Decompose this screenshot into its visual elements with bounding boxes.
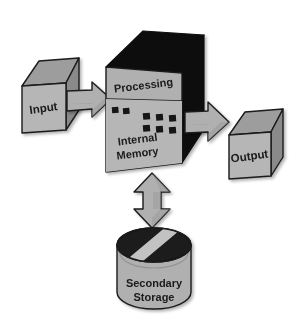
- diagram-canvas: Input Processing: [0, 0, 298, 322]
- node-processing-unit[interactable]: Processing Internal Memory: [106, 31, 204, 172]
- arrow-memory-to-storage: [134, 173, 170, 228]
- node-output[interactable]: Output: [229, 109, 283, 179]
- secondary-storage-label-line2: Storage: [134, 291, 175, 303]
- chip-square: [169, 127, 177, 134]
- chip-square: [143, 113, 151, 120]
- chip-square: [156, 126, 164, 133]
- chip-square: [112, 107, 119, 114]
- node-secondary-storage[interactable]: Secondary Storage: [117, 225, 191, 309]
- chip-square: [123, 108, 130, 115]
- chip-square: [156, 114, 164, 121]
- chip-square: [169, 115, 177, 122]
- secondary-storage-label-line1: Secondary: [126, 277, 183, 289]
- computer-system-diagram: Input Processing: [0, 0, 298, 322]
